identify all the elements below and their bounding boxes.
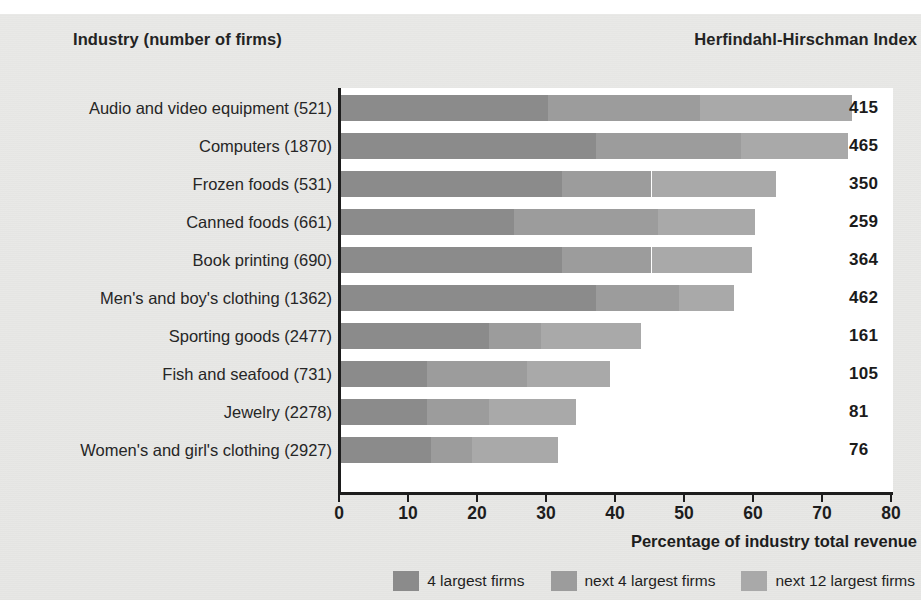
legend-label: next 4 largest firms <box>585 572 716 590</box>
bar-segment-1 <box>341 399 427 425</box>
x-axis-tick-label: 20 <box>457 503 497 524</box>
hhi-value: 76 <box>849 437 913 463</box>
bar-segment-1 <box>341 247 562 273</box>
x-axis-tick <box>752 492 754 502</box>
bar-segment-1 <box>341 285 596 311</box>
bar-segment-3 <box>527 361 610 387</box>
category-label: Jewelry (2278) <box>2 399 332 425</box>
bar-segment-2 <box>514 209 659 235</box>
x-axis-tick-label: 10 <box>388 503 428 524</box>
x-axis-tick <box>545 492 547 502</box>
legend-label: next 12 largest firms <box>775 572 915 590</box>
x-axis-title: Percentage of industry total revenue <box>631 532 917 551</box>
category-label: Women's and girl's clothing (2927) <box>2 437 332 463</box>
hhi-value: 415 <box>849 95 913 121</box>
hhi-value: 105 <box>849 361 913 387</box>
bar-segment-3 <box>472 437 558 463</box>
figure-bottom-margin <box>0 600 921 614</box>
bar-segment-2 <box>596 285 679 311</box>
x-axis-tick-label: 80 <box>871 503 911 524</box>
category-label: Fish and seafood (731) <box>2 361 332 387</box>
category-label: Book printing (690) <box>2 247 332 273</box>
x-axis-tick-label: 50 <box>664 503 704 524</box>
bar-rows <box>341 88 893 492</box>
legend-swatch-3 <box>741 571 767 591</box>
bar-segment-2 <box>562 171 652 197</box>
category-label: Men's and boy's clothing (1362) <box>2 285 332 311</box>
x-axis-tick <box>890 492 892 502</box>
bar-segment-3 <box>741 133 848 159</box>
legend-label: 4 largest firms <box>427 572 524 590</box>
hhi-value: 350 <box>849 171 913 197</box>
category-label: Computers (1870) <box>2 133 332 159</box>
bar-segment-2 <box>596 133 741 159</box>
x-axis-tick <box>821 492 823 502</box>
x-axis-tick-label: 30 <box>526 503 566 524</box>
bar-segment-2 <box>427 361 527 387</box>
bar-segment-3 <box>679 285 734 311</box>
bar-segment-1 <box>341 133 596 159</box>
bar-segment-1 <box>341 437 431 463</box>
bar-segment-3 <box>652 171 776 197</box>
legend-item: 4 largest firms <box>393 571 524 591</box>
hhi-value: 81 <box>849 399 913 425</box>
x-axis-tick <box>407 492 409 502</box>
hhi-value: 465 <box>849 133 913 159</box>
bar-segment-1 <box>341 323 489 349</box>
legend-item: next 12 largest firms <box>741 571 915 591</box>
x-axis-tick-label: 60 <box>733 503 773 524</box>
category-label: Sporting goods (2477) <box>2 323 332 349</box>
bar-segment-1 <box>341 171 562 197</box>
hhi-column-header: Herfindahl-Hirschman Index <box>694 30 917 49</box>
x-axis-tick <box>683 492 685 502</box>
legend: 4 largest firmsnext 4 largest firmsnext … <box>0 564 921 598</box>
x-axis-tick-label: 70 <box>802 503 842 524</box>
bar-segment-1 <box>341 209 514 235</box>
bar-segment-1 <box>341 361 427 387</box>
plot-area <box>338 88 893 495</box>
hhi-value: 161 <box>849 323 913 349</box>
category-label: Frozen foods (531) <box>2 171 332 197</box>
legend-swatch-1 <box>393 571 419 591</box>
bar-segment-2 <box>548 95 700 121</box>
industry-column-header: Industry (number of firms) <box>73 30 282 49</box>
bar-segment-3 <box>652 247 752 273</box>
chart-figure: Industry (number of firms) Herfindahl-Hi… <box>0 0 921 614</box>
x-axis-tick <box>614 492 616 502</box>
bar-segment-3 <box>489 399 575 425</box>
x-axis-tick <box>476 492 478 502</box>
hhi-value: 364 <box>849 247 913 273</box>
x-axis-tick-label: 0 <box>319 503 359 524</box>
category-label: Canned foods (661) <box>2 209 332 235</box>
bar-segment-1 <box>341 95 548 121</box>
bar-segment-2 <box>562 247 652 273</box>
hhi-value: 259 <box>849 209 913 235</box>
bar-segment-3 <box>541 323 641 349</box>
legend-item: next 4 largest firms <box>551 571 716 591</box>
bar-segment-3 <box>700 95 852 121</box>
x-axis-tick <box>338 492 340 502</box>
hhi-value: 462 <box>849 285 913 311</box>
bar-segment-3 <box>658 209 755 235</box>
bar-segment-2 <box>431 437 472 463</box>
bar-segment-2 <box>489 323 541 349</box>
bar-segment-2 <box>427 399 489 425</box>
legend-swatch-2 <box>551 571 577 591</box>
x-axis-tick-label: 40 <box>595 503 635 524</box>
category-label: Audio and video equipment (521) <box>2 95 332 121</box>
